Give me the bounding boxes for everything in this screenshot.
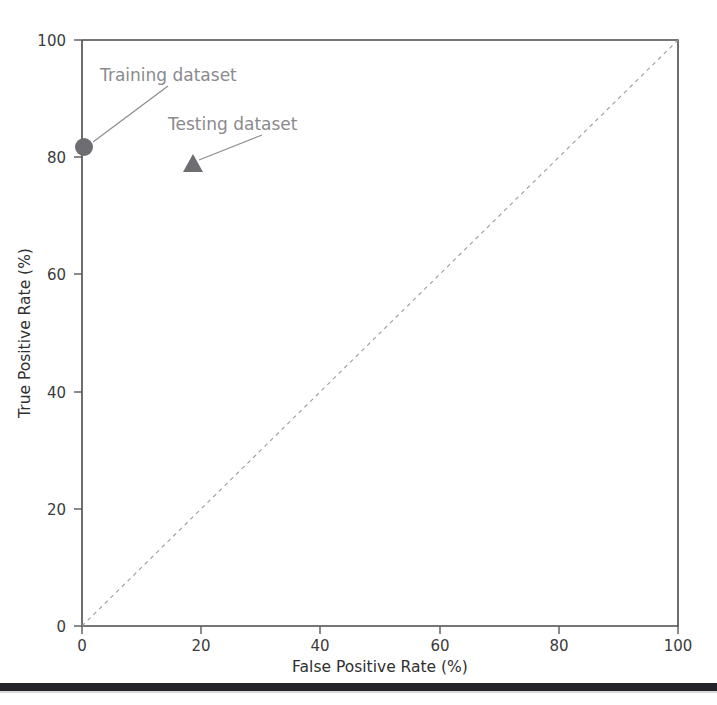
training-dataset-point[interactable]	[75, 138, 93, 156]
x-axis-tick-labels: 0 20 40 60 80 100	[77, 637, 692, 655]
x-tick-label-0: 0	[77, 637, 87, 655]
x-tick-label-40: 40	[310, 637, 329, 655]
y-axis-ticks	[74, 40, 82, 626]
y-tick-label-20: 20	[47, 501, 66, 519]
figure-page: 0 20 40 60 80 100 0 20 40 60 8	[0, 0, 717, 705]
scan-artifact-bar	[0, 683, 717, 691]
y-tick-label-40: 40	[47, 384, 66, 402]
x-axis-title: False Positive Rate (%)	[292, 658, 468, 676]
training-dataset-annotation: Training dataset	[99, 65, 237, 85]
testing-dataset-annotation: Testing dataset	[167, 114, 298, 134]
training-leader-line	[93, 86, 168, 142]
y-axis-tick-labels: 0 20 40 60 80 100	[37, 32, 66, 636]
roc-scatter-figure: 0 20 40 60 80 100 0 20 40 60 8	[0, 0, 717, 678]
testing-dataset-point[interactable]	[183, 154, 203, 172]
y-tick-label-60: 60	[47, 266, 66, 284]
x-tick-label-100: 100	[664, 637, 693, 655]
plot-canvas: 0 20 40 60 80 100 0 20 40 60 8	[0, 0, 717, 678]
testing-leader-line	[199, 135, 262, 160]
x-tick-label-20: 20	[191, 637, 210, 655]
y-axis-title: True Positive Rate (%)	[16, 248, 34, 419]
y-tick-label-80: 80	[47, 149, 66, 167]
scan-artifact-shade	[0, 691, 717, 693]
y-tick-label-100: 100	[37, 32, 66, 50]
x-tick-label-60: 60	[430, 637, 449, 655]
x-tick-label-80: 80	[549, 637, 568, 655]
x-axis-ticks	[82, 626, 678, 634]
y-tick-label-0: 0	[56, 618, 66, 636]
